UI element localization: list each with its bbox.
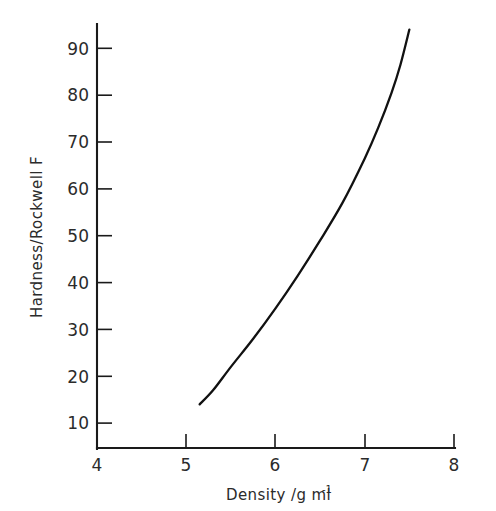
x-tick-label-8: 8 <box>449 455 460 475</box>
x-tick-label-4: 4 <box>92 455 103 475</box>
x-axis-title-superscript: -1 <box>322 484 332 495</box>
chart-background <box>0 0 496 511</box>
x-tick-label-6: 6 <box>270 455 281 475</box>
y-axis-title: Hardness/Rockwell F <box>28 156 46 318</box>
y-tick-label-30: 30 <box>67 320 89 340</box>
y-tick-label-20: 20 <box>67 367 89 387</box>
x-axis-title-main: Density /g ml <box>226 486 331 504</box>
y-axis-tick-labels: 90 80 70 60 50 40 30 20 10 <box>67 39 89 434</box>
hardness-density-chart: 90 80 70 60 50 40 30 20 10 Hardness/Rock… <box>0 0 496 511</box>
x-tick-label-7: 7 <box>360 455 371 475</box>
y-tick-label-70: 70 <box>67 132 89 152</box>
y-tick-label-80: 80 <box>67 85 89 105</box>
y-tick-label-10: 10 <box>67 413 89 433</box>
y-tick-label-40: 40 <box>67 273 89 293</box>
x-tick-label-5: 5 <box>181 455 192 475</box>
y-tick-label-50: 50 <box>67 226 89 246</box>
y-tick-label-90: 90 <box>67 39 89 59</box>
x-axis-title: Density /g ml -1 <box>226 484 332 504</box>
y-tick-label-60: 60 <box>67 179 89 199</box>
